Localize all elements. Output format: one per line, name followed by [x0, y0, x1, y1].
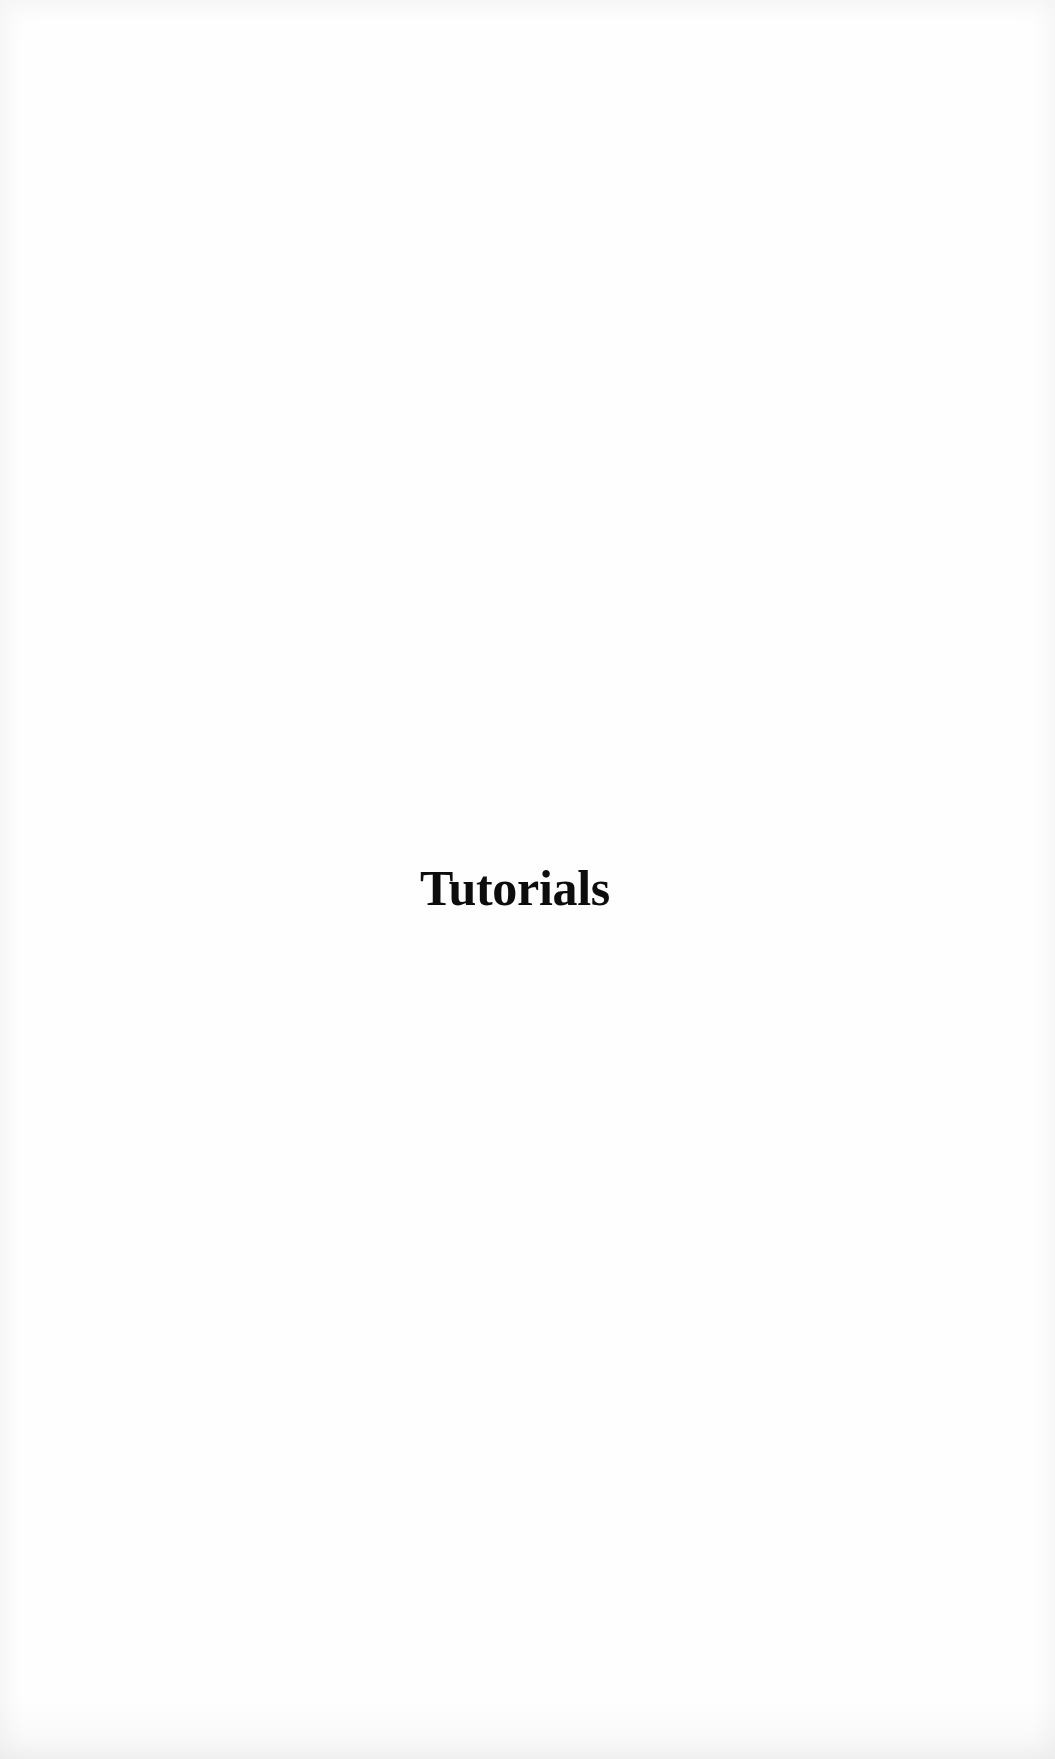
page-title: Tutorials — [0, 858, 1030, 918]
document-page: Tutorials — [0, 0, 1055, 1759]
